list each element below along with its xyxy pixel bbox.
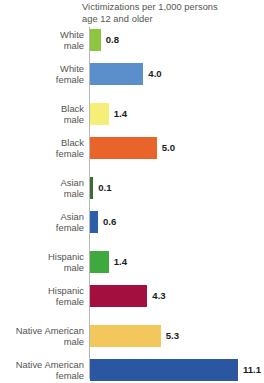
bar-row[interactable]: Hispanic male1.4 [0, 251, 264, 273]
bar-rect[interactable] [90, 103, 109, 125]
bar-category-label: Asian male [0, 177, 84, 200]
bar-rect[interactable] [90, 63, 143, 85]
bar-value-label: 0.6 [103, 217, 116, 227]
bar-row[interactable]: White female4.0 [0, 63, 264, 85]
bar-category-label: Black female [0, 137, 84, 160]
bar-row[interactable]: Black female5.0 [0, 137, 264, 159]
bar-rect[interactable] [90, 29, 101, 51]
bar-value-label: 0.1 [98, 183, 111, 193]
bar-value-label: 4.3 [152, 291, 165, 301]
bar-category-label: Hispanic female [0, 285, 84, 308]
bar-row[interactable]: Asian male0.1 [0, 177, 264, 199]
bar-rect[interactable] [90, 285, 147, 307]
bar-value-label: 5.3 [166, 331, 179, 341]
bar-value-label: 0.8 [106, 35, 119, 45]
bar-value-label: 5.0 [162, 143, 175, 153]
chart-title: Victimizations per 1,000 persons age 12 … [82, 2, 262, 25]
bar-row[interactable]: Hispanic female4.3 [0, 285, 264, 307]
bar-value-label: 1.4 [114, 257, 127, 267]
bar-category-label: Hispanic male [0, 251, 84, 274]
bar-rect[interactable] [90, 251, 109, 273]
bar-row[interactable]: Native American male5.3 [0, 325, 264, 347]
bar-row[interactable]: White male0.8 [0, 29, 264, 51]
bar-row[interactable]: Black male1.4 [0, 103, 264, 125]
bar-chart: Victimizations per 1,000 persons age 12 … [0, 0, 264, 383]
bar-value-label: 11.1 [243, 365, 261, 375]
bar-rect[interactable] [90, 325, 161, 347]
bar-value-label: 1.4 [114, 109, 127, 119]
bar-category-label: Native American female [0, 359, 84, 382]
bar-rect[interactable] [90, 359, 238, 381]
bar-value-label: 4.0 [148, 69, 161, 79]
bar-category-label: Black male [0, 103, 84, 126]
bar-row[interactable]: Asian female0.6 [0, 211, 264, 233]
bar-category-label: Asian female [0, 211, 84, 234]
bar-rect[interactable] [90, 177, 93, 199]
bar-category-label: Native American male [0, 325, 84, 348]
plot-area: White male0.8White female4.0Black male1.… [0, 27, 264, 383]
bar-row[interactable]: Native American female11.1 [0, 359, 264, 381]
bar-category-label: White male [0, 29, 84, 52]
bar-rect[interactable] [90, 137, 157, 159]
bar-rect[interactable] [90, 211, 98, 233]
bar-category-label: White female [0, 63, 84, 86]
